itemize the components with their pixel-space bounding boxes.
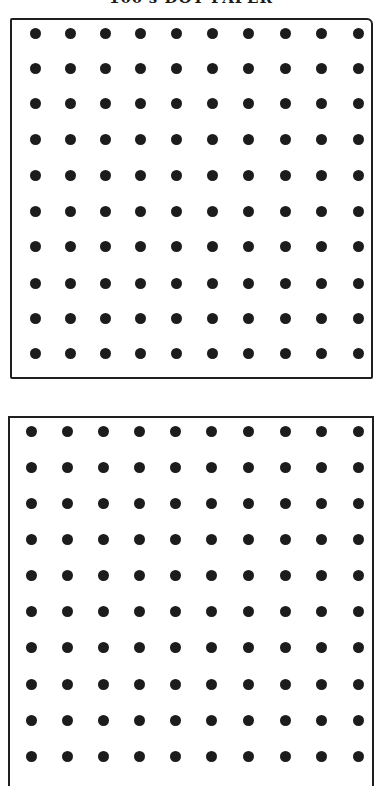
dot-icon <box>243 715 254 726</box>
dot-icon <box>316 241 327 252</box>
dot-icon <box>134 534 145 545</box>
dot-icon <box>207 241 218 252</box>
dot-icon <box>98 534 109 545</box>
dot-icon <box>65 241 76 252</box>
dot-icon <box>171 206 182 217</box>
dot-icon <box>280 570 291 581</box>
dot-icon <box>62 715 73 726</box>
dot-icon <box>170 498 181 509</box>
dot-icon <box>353 28 364 39</box>
dot-icon <box>134 462 145 473</box>
dot-icon <box>280 241 291 252</box>
dot-icon <box>170 426 181 437</box>
dot-icon <box>135 63 146 74</box>
dot-icon <box>243 751 254 762</box>
dot-icon <box>207 348 218 359</box>
dot-icon <box>280 170 291 181</box>
dot-icon <box>30 170 41 181</box>
dot-icon <box>30 28 41 39</box>
dot-icon <box>98 426 109 437</box>
dot-icon <box>353 606 364 617</box>
dot-icon <box>316 28 327 39</box>
dot-icon <box>171 170 182 181</box>
dot-icon <box>243 63 254 74</box>
dot-icon <box>62 462 73 473</box>
dot-icon <box>98 679 109 690</box>
dot-icon <box>62 570 73 581</box>
dot-icon <box>280 313 291 324</box>
dot-icon <box>98 642 109 653</box>
dot-icon <box>100 63 111 74</box>
dot-icon <box>100 98 111 109</box>
dot-icon <box>353 715 364 726</box>
dot-icon <box>316 498 327 509</box>
dot-icon <box>243 498 254 509</box>
dot-icon <box>316 206 327 217</box>
dot-icon <box>353 313 364 324</box>
dot-icon <box>280 206 291 217</box>
dot-icon <box>135 278 146 289</box>
dot-icon <box>170 642 181 653</box>
dot-icon <box>353 570 364 581</box>
dot-icon <box>207 278 218 289</box>
dot-icon <box>206 606 217 617</box>
dot-icon <box>316 348 327 359</box>
dot-icon <box>280 426 291 437</box>
dot-icon <box>134 751 145 762</box>
dot-icon <box>353 348 364 359</box>
dot-icon <box>206 498 217 509</box>
dot-icon <box>353 642 364 653</box>
dot-icon <box>26 751 37 762</box>
dot-icon <box>170 751 181 762</box>
dot-icon <box>30 278 41 289</box>
dot-icon <box>280 606 291 617</box>
dot-icon <box>98 462 109 473</box>
dot-icon <box>280 534 291 545</box>
dot-icon <box>30 241 41 252</box>
dot-icon <box>353 278 364 289</box>
dot-icon <box>316 606 327 617</box>
dot-icon <box>65 278 76 289</box>
dot-icon <box>243 642 254 653</box>
dot-icon <box>280 679 291 690</box>
dot-icon <box>30 134 41 145</box>
dot-icon <box>353 498 364 509</box>
dot-icon <box>243 679 254 690</box>
dot-icon <box>206 570 217 581</box>
dot-icon <box>170 679 181 690</box>
dot-icon <box>100 313 111 324</box>
dot-icon <box>280 498 291 509</box>
dot-icon <box>135 28 146 39</box>
dot-icon <box>243 313 254 324</box>
dot-icon <box>207 98 218 109</box>
dot-icon <box>353 206 364 217</box>
dot-icon <box>280 715 291 726</box>
dot-icon <box>207 134 218 145</box>
dot-icon <box>134 570 145 581</box>
dot-icon <box>243 170 254 181</box>
dot-icon <box>30 98 41 109</box>
dot-icon <box>62 606 73 617</box>
dot-icon <box>100 241 111 252</box>
dot-icon <box>243 206 254 217</box>
dot-icon <box>280 134 291 145</box>
dot-icon <box>316 462 327 473</box>
dot-icon <box>98 606 109 617</box>
dot-icon <box>280 462 291 473</box>
dot-icon <box>316 63 327 74</box>
dot-icon <box>65 28 76 39</box>
dot-icon <box>62 498 73 509</box>
dot-icon <box>353 98 364 109</box>
dot-icon <box>134 426 145 437</box>
dot-icon <box>316 134 327 145</box>
dot-icon <box>135 348 146 359</box>
dot-icon <box>353 170 364 181</box>
dot-icon <box>26 679 37 690</box>
dot-icon <box>171 313 182 324</box>
dot-icon <box>353 534 364 545</box>
dot-icon <box>30 313 41 324</box>
dot-icon <box>316 278 327 289</box>
dot-icon <box>353 679 364 690</box>
dot-icon <box>280 348 291 359</box>
dot-icon <box>243 534 254 545</box>
